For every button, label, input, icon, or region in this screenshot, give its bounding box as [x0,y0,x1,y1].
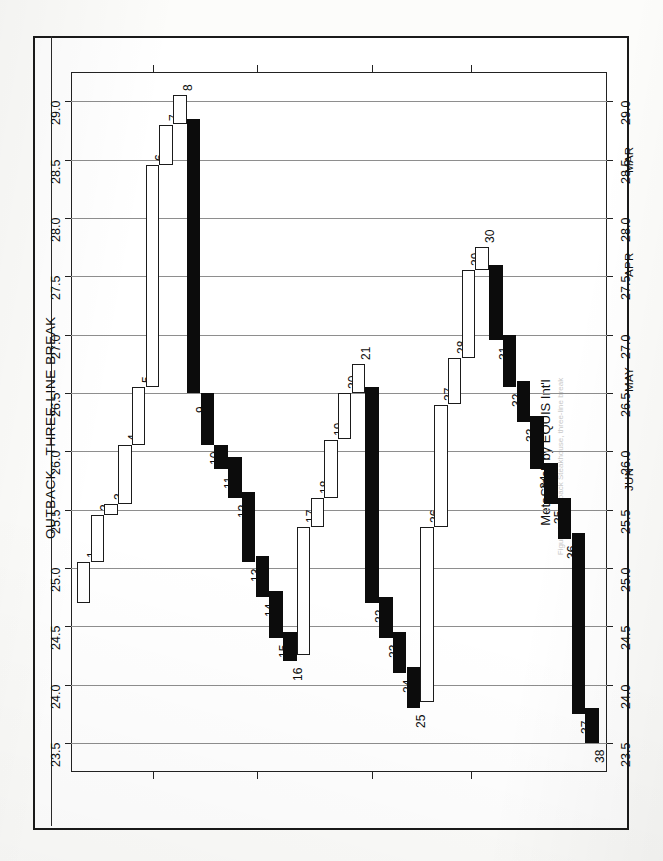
three-line-break-block [228,457,241,498]
three-line-break-block [475,247,488,270]
price-tick [65,276,71,277]
three-line-break-block [297,527,310,655]
three-line-break-block [379,597,392,638]
scanned-page: OUTBACK—THREE-LINE BREAK MetaStock by EQ… [0,0,663,861]
three-line-break-block [393,632,406,673]
month-axis-label: MAR [623,146,635,172]
month-tick [153,65,154,72]
month-tick [372,65,373,72]
three-line-break-block [256,556,269,597]
price-gridline [71,451,607,452]
three-line-break-block [242,492,255,562]
price-axis-label: 27.5 [49,276,63,300]
price-gridline [71,510,607,511]
three-line-break-block [558,498,571,539]
block-number-label: 38 [593,749,607,762]
three-line-break-block [214,445,227,468]
price-tick [65,626,71,627]
price-axis-label: 24.0 [619,684,633,708]
three-line-break-block [338,393,351,440]
price-tick [607,218,613,219]
three-line-break-block [352,364,365,393]
price-tick [65,218,71,219]
price-axis-label: 25.5 [619,509,633,533]
block-number-label: 25 [414,714,428,727]
price-axis-label: 28.5 [49,159,63,183]
three-line-break-block [283,632,296,661]
three-line-break-block [462,270,475,358]
three-line-break-block [146,165,159,387]
three-line-break-block [517,381,530,422]
price-tick [607,160,613,161]
price-axis-label: 25.0 [619,567,633,591]
price-axis-label: 26.5 [619,392,633,416]
price-tick [607,393,613,394]
price-axis-label: 25.0 [49,567,63,591]
month-axis-label: MAY [623,367,635,392]
three-line-break-block [544,463,557,504]
three-line-break-block [77,562,90,603]
three-line-break-block [324,440,337,498]
price-tick [607,568,613,569]
price-axis-label: 25.5 [49,509,63,533]
price-tick [607,626,613,627]
three-line-break-block [311,498,324,527]
block-number-label: 30 [483,230,497,243]
month-tick [257,772,258,779]
month-tick [471,772,472,779]
price-axis-label: 28.0 [619,217,633,241]
three-line-break-block [530,416,543,469]
price-gridline [71,743,607,744]
three-line-break-block [448,358,461,405]
price-tick [65,568,71,569]
price-tick [607,335,613,336]
rotated-chart-wrapper: OUTBACK—THREE-LINE BREAK MetaStock by EQ… [0,0,663,861]
month-tick [471,65,472,72]
price-gridline [71,626,607,627]
month-tick [153,772,154,779]
price-tick [65,393,71,394]
three-line-break-block [434,405,447,528]
block-number-label: 16 [291,668,305,681]
price-tick [65,685,71,686]
price-tick [607,743,613,744]
three-line-break-block [407,667,420,708]
three-line-break-block [91,515,104,562]
three-line-break-block [201,393,214,446]
price-axis-label: 28.0 [49,217,63,241]
block-number-label: 8 [181,85,195,92]
price-axis-label: 23.5 [619,742,633,766]
three-line-break-block [269,591,282,638]
price-axis-label: 24.5 [49,626,63,650]
three-line-break-block [159,125,172,166]
price-axis-label: 24.0 [49,684,63,708]
price-axis-label: 26.5 [49,392,63,416]
price-axis-label: 29.0 [619,101,633,125]
price-tick [607,685,613,686]
price-axis-label: 27.0 [49,334,63,358]
price-tick [65,101,71,102]
three-line-break-block [132,387,145,445]
three-line-break-block [365,387,378,603]
price-tick [65,451,71,452]
price-axis-label: 24.5 [619,626,633,650]
three-line-break-block [118,445,131,503]
price-gridline [71,101,607,102]
price-tick [65,335,71,336]
block-number-label: 21 [359,346,373,359]
price-tick [607,276,613,277]
price-tick [65,510,71,511]
price-tick [607,510,613,511]
three-line-break-block [489,265,502,341]
price-tick [607,451,613,452]
three-line-break-block [503,335,516,388]
price-axis-label: 26.0 [49,451,63,475]
three-line-break-block [104,504,117,516]
three-line-break-block [187,119,200,393]
price-axis-label: 27.0 [619,334,633,358]
three-line-break-block [420,527,433,702]
month-axis-label: APR [623,253,635,278]
price-gridline [71,568,607,569]
price-gridline [71,685,607,686]
price-gridline [71,160,607,161]
